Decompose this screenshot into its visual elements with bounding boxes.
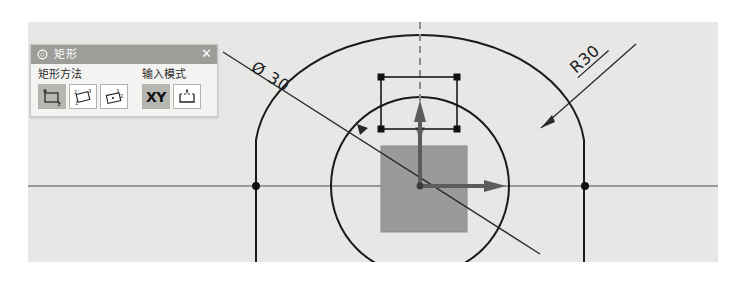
snap-point-right[interactable] (581, 182, 589, 190)
rectangle-method-buttons: 2 2 3 1 (38, 84, 128, 109)
rectangle-from-center-icon: 3 2 (104, 88, 124, 106)
svg-text:2: 2 (58, 100, 61, 106)
svg-text:2: 2 (74, 89, 77, 95)
rectangle-by-2-corners-button[interactable]: 2 (38, 84, 66, 109)
dimension-input-icon (177, 88, 197, 106)
gear-icon (37, 49, 48, 60)
filled-square[interactable] (381, 146, 467, 232)
rectangle-by-3-points-button[interactable]: 2 3 1 (69, 84, 97, 109)
input-mode-group: 输入模式 XY (142, 68, 201, 109)
input-mode-buttons: XY (142, 84, 201, 109)
snap-point-left[interactable] (252, 182, 260, 190)
rect-handle-top-left[interactable] (378, 74, 385, 81)
rectangle-by-2-corners-icon: 2 (42, 88, 62, 106)
input-mode-label: 输入模式 (142, 68, 201, 81)
rectangle-from-center-button[interactable]: 3 2 (100, 84, 128, 109)
rectangle-method-label: 矩形方法 (38, 68, 128, 81)
rect-handle-top-right[interactable] (454, 74, 461, 81)
radius-dimension-group: R30 (565, 36, 608, 77)
svg-text:3: 3 (88, 88, 91, 94)
diameter-arrowhead (357, 124, 368, 135)
screenshot-root: Ø 30 R30 矩形 ✕ 矩形方法 (0, 0, 734, 293)
xy-coordinate-icon: XY (146, 89, 166, 105)
diameter-dimension-text[interactable]: Ø 30 (248, 57, 294, 96)
svg-text:3: 3 (116, 88, 119, 94)
rect-handle-bottom-left[interactable] (378, 126, 385, 133)
rectangle-method-group: 矩形方法 2 2 3 (38, 68, 128, 109)
x-axis-arrowhead[interactable] (484, 180, 506, 192)
dialog-body: 矩形方法 2 2 3 (31, 64, 217, 116)
close-icon[interactable]: ✕ (201, 47, 212, 61)
rectangle-dialog[interactable]: 矩形 ✕ 矩形方法 2 (30, 44, 218, 117)
rectangle-by-3-points-icon: 2 3 1 (73, 88, 93, 106)
svg-text:1: 1 (75, 100, 78, 106)
dialog-title-bar[interactable]: 矩形 ✕ (31, 45, 217, 64)
origin-point[interactable] (417, 183, 424, 190)
y-axis-arrowhead[interactable] (414, 100, 426, 122)
dimension-input-button[interactable] (173, 84, 201, 109)
dialog-title-label: 矩形 (54, 49, 77, 60)
xy-coordinate-button[interactable]: XY (142, 84, 170, 109)
rect-handle-bottom-right[interactable] (454, 126, 461, 133)
svg-text:2: 2 (120, 93, 123, 99)
